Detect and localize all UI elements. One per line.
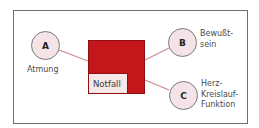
node-a-letter: A <box>42 41 49 51</box>
node-a-label: Atmung <box>27 65 58 76</box>
node-c-circle: C <box>169 81 198 110</box>
connector-b <box>145 48 169 60</box>
node-a-circle: A <box>31 31 60 60</box>
connector-a <box>59 50 88 61</box>
center-label-box: Notfall <box>88 73 128 94</box>
node-b-letter: B <box>179 38 186 48</box>
node-c-letter: C <box>180 91 187 101</box>
node-b-circle: B <box>168 28 197 57</box>
connector-c <box>145 80 169 90</box>
node-b-label: Bewußt- sein <box>200 29 233 50</box>
node-c-label: Herz- Kreislauf- Funktion <box>201 79 238 111</box>
center-label: Notfall <box>93 79 121 89</box>
